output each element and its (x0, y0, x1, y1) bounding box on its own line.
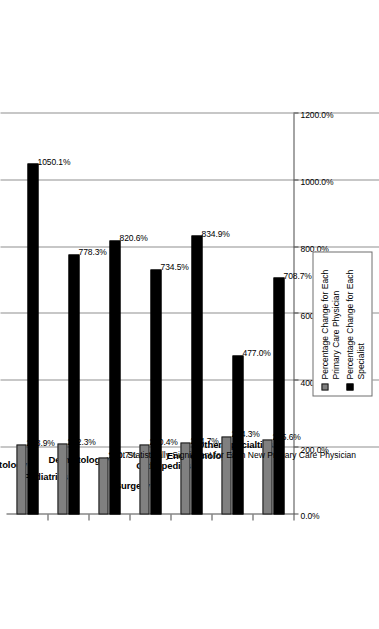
value-axis-tick (293, 446, 298, 447)
bar (221, 436, 232, 514)
bar-value-label: 477.0% (242, 347, 270, 357)
value-axis-tick-label: 1000.0% (300, 176, 333, 186)
legend-item-primary-care: Percentage Change for Each Primary Care … (319, 269, 340, 390)
bar (27, 163, 38, 514)
specialist-swatch-icon (346, 383, 353, 390)
bar-value-label: 820.6% (119, 232, 147, 242)
bar-value-label: 225.6% (272, 431, 300, 441)
bar-value-label: 234.3% (231, 428, 259, 438)
bar (191, 235, 202, 514)
bar (16, 444, 27, 514)
bar-value-label: 214.7% (190, 435, 218, 445)
value-axis-tick (293, 313, 298, 314)
value-axis-tick-label: 1200.0% (300, 110, 333, 120)
primary-care-swatch-icon (321, 383, 328, 390)
value-axis-tick (293, 379, 298, 380)
bar (98, 457, 109, 514)
bar-value-label: 212.3% (67, 436, 95, 446)
chart-figure: 0.0%200.0%400.0%600.0%800.0%1000.0%1200.… (0, 0, 379, 629)
legend-label-primary-care: Percentage Change for Each Primary Care … (319, 269, 340, 379)
category-axis (6, 513, 293, 514)
bar-value-label: 208.9% (26, 437, 54, 447)
category-axis-tick (211, 514, 212, 520)
bar (68, 254, 79, 514)
chart-legend: Percentage Change for Each Primary Care … (312, 251, 372, 396)
value-axis-tick (293, 246, 298, 247)
category-axis-tick (293, 514, 294, 520)
category-axis-tick (88, 514, 89, 520)
bar-value-label: 210.4% (149, 436, 177, 446)
category-axis-tick (47, 514, 48, 520)
category-axis-tick (252, 514, 253, 520)
legend-item-specialist: Percentage Change for Each Specialist (344, 269, 365, 390)
legend-label-specialist: Percentage Change for Each Specialist (344, 269, 365, 379)
value-axis-tick (293, 112, 298, 113)
bar-value-label: 778.3% (78, 246, 106, 256)
bar-value-label: 1050.1% (37, 156, 70, 166)
bar-value-label: 834.9% (201, 228, 229, 238)
category-axis-tick (170, 514, 171, 520)
category-axis-tick (129, 514, 130, 520)
bar (57, 443, 68, 514)
bar (109, 240, 120, 514)
bar (150, 269, 161, 514)
value-axis-tick-label: 0.0% (300, 511, 319, 521)
bar (273, 277, 284, 514)
bar-value-label: 708.7% (283, 270, 311, 280)
footnote-annotation: *Not Statistically Significant for Each … (108, 449, 356, 459)
value-axis-tick (293, 179, 298, 180)
bar-value-label: 734.5% (160, 261, 188, 271)
